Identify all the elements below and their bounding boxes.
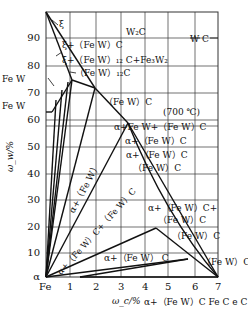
x-tick-3: 3 xyxy=(118,281,124,292)
label-few12c: （Fe W）₁₂C xyxy=(75,68,130,78)
phase-diagram: 90 80 70 60 50 40 30 20 10 α Fe W Fe W F… xyxy=(0,0,248,319)
label-a-few-fewc: α+Fe W+（Fe W）C xyxy=(114,122,206,132)
label-fewc-right: （Fe W）C xyxy=(202,257,248,267)
label-xi-few12c: ξ+（Fe W）₁₂ C+Fe₃W₂ xyxy=(62,55,168,65)
x-tick-fe: Fe xyxy=(39,281,51,292)
label-a-few-c-low: α+（Fe W） C xyxy=(104,253,169,263)
y-tick-50: 50 xyxy=(18,141,40,152)
label-temperature: (700 ℃) xyxy=(163,107,200,117)
label-wc: W C xyxy=(190,34,209,44)
y-tick-alpha: α xyxy=(18,271,40,282)
label-fewc-low1: （Fe W）C xyxy=(158,215,206,225)
y-axis-title: ω_w/% xyxy=(5,141,15,172)
label-a-fewc-2: α+（Fe W）C xyxy=(126,150,188,160)
label-fewc-top: （Fe W）C xyxy=(104,97,152,107)
label-bottom: α+（Fe W）C Fe C e C xyxy=(144,297,247,307)
label-fewc-low2: （Fe W）C xyxy=(172,231,220,241)
y-tick-20: 20 xyxy=(18,221,40,232)
label-a-fewc-c-plus: α+（Fe W）C+ xyxy=(148,203,217,213)
y-tick-90: 90 xyxy=(18,32,40,43)
label-xi: ξ xyxy=(59,19,64,29)
y-tick-40: 40 xyxy=(18,168,40,179)
y-tick-10: 10 xyxy=(18,247,40,258)
label-xi-fewc: ξ+（Fe W）C xyxy=(62,40,123,50)
x-tick-2: 2 xyxy=(93,281,99,292)
left-label-few-2: Fe W xyxy=(2,101,25,111)
label-a-fewc-1: α+（Fe W）C xyxy=(125,136,187,146)
x-tick-4: 4 xyxy=(142,281,148,292)
y-tick-70: 70 xyxy=(18,87,40,98)
y-tick-80: 80 xyxy=(18,60,40,71)
y-tick-60: 60 xyxy=(18,114,40,125)
x-tick-5: 5 xyxy=(165,281,171,292)
x-tick-1: 1 xyxy=(67,281,73,292)
label-w2c: W₂C xyxy=(126,27,146,37)
x-tick-7: 7 xyxy=(215,281,221,292)
left-label-few-1: Fe W xyxy=(2,74,25,84)
label-fewc-mid: （Fe W）C xyxy=(133,163,181,173)
y-tick-30: 30 xyxy=(18,194,40,205)
x-axis-title: ω_c/% xyxy=(112,296,140,306)
x-tick-6: 6 xyxy=(192,281,198,292)
